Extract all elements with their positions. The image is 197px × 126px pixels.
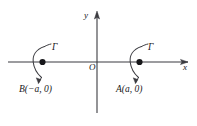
- y-axis-label: y: [84, 11, 88, 20]
- point-marker-b: [39, 59, 45, 65]
- contour-label-right: Γ: [148, 43, 153, 53]
- point-label-b: B(−a, 0): [19, 85, 52, 95]
- origin-label: O: [89, 63, 96, 72]
- point-marker-a: [136, 59, 142, 65]
- diagram-svg: [0, 0, 197, 126]
- x-axis-label: x: [183, 63, 187, 72]
- x-axis: [8, 59, 188, 64]
- figure-canvas: y x O Γ Γ B(−a, 0) A(a, 0): [0, 0, 197, 126]
- point-label-a: A(a, 0): [116, 85, 142, 95]
- contour-label-left: Γ: [52, 43, 57, 53]
- contour-leader-left: [45, 44, 52, 47]
